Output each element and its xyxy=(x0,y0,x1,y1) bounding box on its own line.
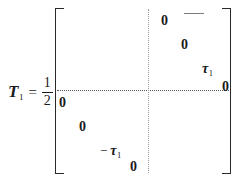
tau-glyph: τ xyxy=(110,143,116,158)
tau-subscript: 1 xyxy=(117,150,122,160)
matrix-horizontal-partition-line xyxy=(57,90,229,91)
matrix-entry-upper-right-3-tau: τ1 xyxy=(202,62,213,78)
fraction-denominator: 2 xyxy=(44,94,51,108)
scan-artifact-mark xyxy=(184,13,204,14)
matrix-entry-upper-right-4: 0 xyxy=(222,80,229,94)
matrix-entry-lower-left-4: 0 xyxy=(130,160,137,174)
matrix-left-bracket xyxy=(55,8,64,174)
matrix-entry-lower-left-2: 0 xyxy=(79,120,86,134)
matrix-entry-lower-left-3-negative-tau: −τ1 xyxy=(100,144,121,160)
matrix-entry-upper-right-2: 0 xyxy=(181,38,188,52)
minus-sign: − xyxy=(100,143,110,158)
matrix-symbol-T: T1 xyxy=(8,83,23,102)
tau-subscript: 1 xyxy=(208,68,213,78)
matrix-symbol-letter: T xyxy=(8,82,18,101)
matrix-vertical-partition-line xyxy=(148,9,149,173)
matrix-entry-upper-right-1: 0 xyxy=(161,14,168,28)
matrix-entry-lower-left-1: 0 xyxy=(59,96,66,110)
equals-sign: = xyxy=(23,85,40,100)
equation-figure: T1 = 1 2 0 0 τ1 0 0 0 −τ1 0 xyxy=(0,0,243,182)
block-matrix: 0 0 τ1 0 0 0 −τ1 0 xyxy=(55,8,231,174)
fraction-numerator: 1 xyxy=(44,76,51,90)
equation-left-hand-side: T1 = 1 2 xyxy=(8,74,54,110)
one-half-fraction: 1 2 xyxy=(41,76,54,108)
